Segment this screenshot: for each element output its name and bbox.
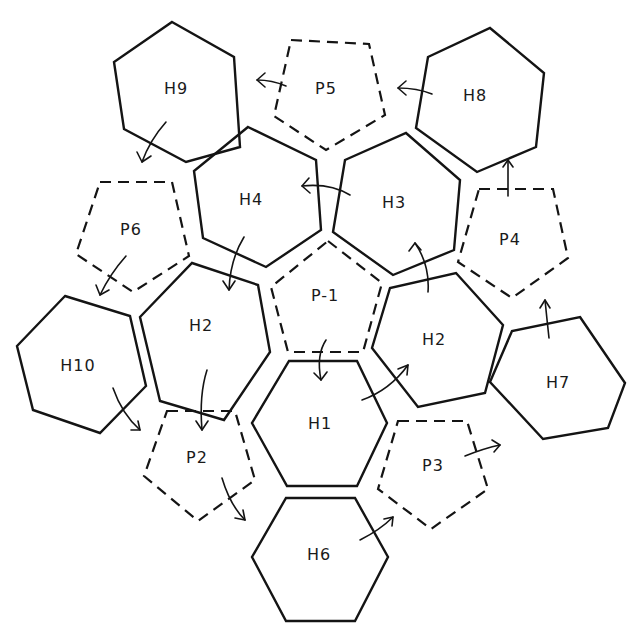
- arrow-h3-to-h4: [302, 178, 350, 195]
- shape-label-p3: P3: [422, 456, 444, 475]
- arrow-h8-to-p5: [398, 81, 432, 95]
- arrow-h4-to-h2l: [223, 237, 244, 290]
- shape-label-h1: H1: [308, 414, 332, 433]
- hexagon-h2l: [140, 263, 270, 420]
- arrow-shaft: [100, 256, 126, 295]
- shapes-layer: [17, 22, 625, 621]
- arrow-h10-to-p2: [113, 388, 140, 430]
- shape-label-p-1: P-1: [311, 286, 339, 305]
- arrow-p4-to-h8: [503, 160, 513, 196]
- arrow-h7-to-p4: [540, 300, 550, 338]
- arrow-shaft: [142, 122, 166, 162]
- arrow-shaft: [201, 370, 207, 430]
- shape-label-p6: P6: [120, 220, 142, 239]
- arrow-h2l-to-p2: [196, 370, 208, 430]
- arrow-shaft: [302, 185, 350, 195]
- shape-label-p4: P4: [499, 230, 521, 249]
- arrow-h1-to-h2r: [362, 365, 408, 400]
- arrow-h9-to-p6: [137, 122, 166, 162]
- arrow-shaft: [362, 365, 408, 400]
- pentagon-p3: [378, 421, 488, 529]
- shape-label-h6: H6: [307, 545, 331, 564]
- shape-label-h2r: H2: [422, 330, 446, 349]
- arrow-shaft: [229, 237, 244, 290]
- arrow-p2-to-h6: [222, 478, 245, 520]
- shape-label-h8: H8: [463, 86, 487, 105]
- arrow-shaft: [113, 388, 140, 430]
- shape-label-h3: H3: [382, 193, 406, 212]
- shape-label-h2l: H2: [189, 316, 213, 335]
- shape-label-h7: H7: [546, 373, 570, 392]
- shape-label-p5: P5: [315, 79, 337, 98]
- arrow-p6-to-h10: [96, 256, 126, 295]
- piecing-diagram: H9P5H8H4H3P6P4P-1H2H2H10H7H1P2P3H6: [0, 0, 638, 626]
- arrows-layer: [96, 73, 550, 540]
- shape-label-h10: H10: [60, 356, 95, 375]
- shape-label-h9: H9: [164, 79, 188, 98]
- arrow-shaft: [222, 478, 245, 520]
- shape-label-p2: P2: [186, 448, 208, 467]
- arrow-p5-to-h9: [257, 73, 286, 87]
- shape-label-h4: H4: [239, 190, 263, 209]
- arrow-p3-to-h7: [465, 440, 500, 456]
